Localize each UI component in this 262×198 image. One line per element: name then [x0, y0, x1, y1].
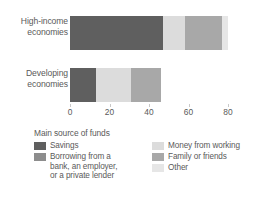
bar-segment	[185, 16, 223, 50]
x-axis-tick-label: 0	[68, 107, 73, 117]
legend-item-label: Family or friends	[168, 152, 227, 162]
bar-segment	[96, 68, 132, 102]
legend-swatch	[34, 142, 46, 150]
bar-segment	[222, 16, 228, 50]
category-label-line-2: economies	[27, 27, 68, 37]
bar-segment	[131, 68, 161, 102]
legend-column-left: SavingsBorrowing from abank, an employer…	[34, 141, 152, 182]
legend-item-label: Borrowing from abank, an employer,or a p…	[50, 152, 117, 181]
category-label-line-1: High-income	[21, 16, 68, 26]
category-label-developing: Developing economies	[0, 68, 68, 89]
legend-item: Family or friends	[152, 152, 256, 162]
plot-area	[70, 14, 228, 104]
legend-swatch	[152, 142, 164, 150]
legend-column-right: Money from workingFamily or friendsOther	[152, 141, 256, 182]
legend-item-label: Money from working	[168, 141, 240, 151]
category-label-line-2: economies	[27, 79, 68, 89]
legend-swatch	[152, 164, 164, 172]
category-label-high-income: High-income economies	[0, 16, 68, 37]
bar-segment	[163, 16, 185, 50]
bar-segment	[70, 16, 163, 50]
x-axis: 020406080	[70, 104, 228, 120]
bar-row-developing	[70, 68, 161, 102]
legend-title: Main source of funds	[34, 128, 256, 138]
legend-item-label: Savings	[50, 141, 78, 151]
stacked-bar-chart: High-income economies Developing economi…	[0, 0, 262, 198]
bar-segment	[70, 68, 96, 102]
legend-item-label-continuation: bank, an employer,	[50, 162, 117, 172]
legend-item-label: Other	[168, 163, 188, 173]
x-axis-tick-label: 80	[223, 107, 232, 117]
legend-item: Money from working	[152, 141, 256, 151]
legend-item: Borrowing from abank, an employer,or a p…	[34, 152, 152, 181]
x-axis-tick-label: 60	[184, 107, 193, 117]
bar-row-high-income	[70, 16, 228, 50]
chart-legend: Main source of funds SavingsBorrowing fr…	[34, 128, 256, 182]
legend-item: Savings	[34, 141, 152, 151]
legend-swatch	[34, 153, 46, 161]
legend-item: Other	[152, 163, 256, 173]
legend-item-label-continuation: or a private lender	[50, 171, 117, 181]
x-axis-tick-label: 20	[105, 107, 114, 117]
category-label-line-1: Developing	[26, 68, 68, 78]
x-axis-tick-label: 40	[144, 107, 153, 117]
legend-swatch	[152, 153, 164, 161]
